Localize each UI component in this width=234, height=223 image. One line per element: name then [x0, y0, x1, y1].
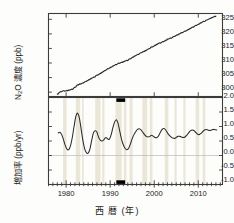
series-n2o-concentration — [57, 16, 216, 94]
shaded-band — [124, 98, 127, 184]
shaded-band — [183, 98, 185, 184]
shaded-band — [203, 98, 206, 184]
shaded-band — [95, 98, 100, 184]
plot-canvas — [0, 0, 234, 223]
shaded-band — [165, 98, 169, 184]
shaded-band — [115, 98, 121, 184]
event-marker-bar — [116, 98, 125, 102]
shaded-band — [142, 98, 147, 184]
shaded-band — [76, 98, 80, 184]
shaded-band — [174, 98, 176, 184]
series-n2o-growth-rate — [58, 113, 217, 153]
figure-n2o-concentration-growth: N2O 濃度 (ppb) 325 320 315 310 305 300 増加率… — [0, 0, 234, 223]
event-marker-bar — [116, 180, 125, 184]
shaded-band — [150, 98, 153, 184]
shaded-band — [196, 98, 200, 184]
